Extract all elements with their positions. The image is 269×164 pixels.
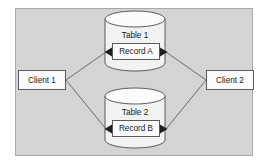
box-recordA[interactable]: Record A: [113, 44, 160, 60]
cylinder-table2-label: Table 2: [122, 108, 149, 117]
diagram-canvas: Table 1 Record A Table 2 Record B Client…: [0, 0, 269, 164]
box-client1[interactable]: Client 1: [19, 71, 66, 90]
cylinder-table2-top: [105, 88, 165, 104]
box-client1-label: Client 1: [28, 76, 56, 85]
cylinder-table1-top: [105, 11, 165, 27]
box-recordA-label: Record A: [119, 47, 153, 56]
box-recordB-label: Record B: [119, 124, 154, 133]
cylinder-table1-label: Table 1: [122, 31, 149, 40]
cylinder-table2[interactable]: Table 2: [105, 88, 165, 148]
box-recordB[interactable]: Record B: [113, 121, 160, 137]
box-client2[interactable]: Client 2: [207, 71, 254, 90]
box-client2-label: Client 2: [216, 76, 244, 85]
cylinder-table1[interactable]: Table 1: [105, 11, 165, 71]
diagram-root: Table 1 Record A Table 2 Record B Client…: [0, 0, 269, 164]
